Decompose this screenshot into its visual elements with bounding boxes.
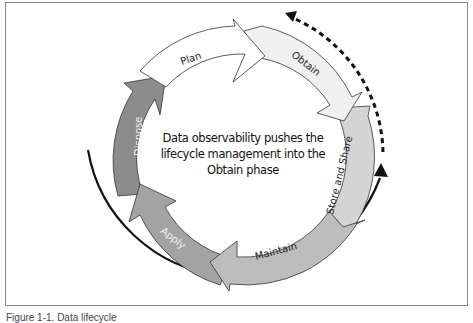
stage-plan-arrow	[140, 19, 265, 87]
solid-arrowhead-icon	[374, 163, 388, 177]
dashed-arrowhead-icon	[285, 11, 297, 22]
center-statement: Data observability pushes the lifecycle …	[148, 130, 338, 178]
stage-label-dispose: Dispose	[133, 116, 144, 156]
figure-caption: Figure 1-1. Data lifecycle	[6, 312, 117, 323]
stage-obtain-arrow	[244, 26, 362, 121]
